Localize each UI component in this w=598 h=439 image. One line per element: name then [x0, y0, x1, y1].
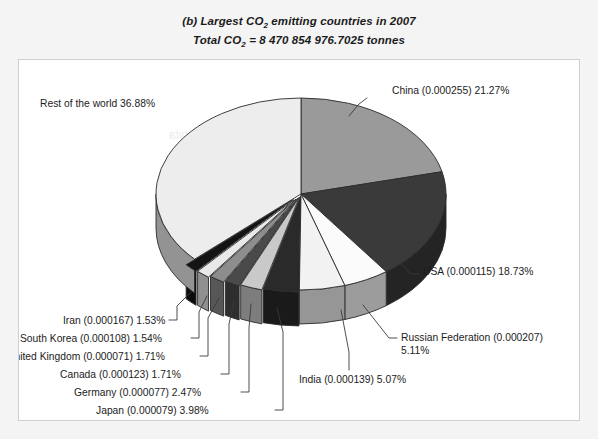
chart-title-line2: Total CO2 = 8 470 854 976.7025 tonnes: [0, 33, 598, 52]
label-united-kingdom: United Kingdom (0.000071) 1.71%: [18, 350, 165, 363]
label-iran: Iran (0.000167) 1.53%: [63, 314, 165, 327]
label-russia-line2: 5.11%: [401, 344, 429, 357]
label-japan: Japan (0.000079) 3.98%: [96, 404, 209, 417]
pie-chart-3d: [19, 60, 580, 421]
label-south-korea: South Korea (0.000108) 1.54%: [20, 332, 162, 345]
chart-title-line1: (b) Largest CO2 emitting countries in 20…: [0, 14, 598, 33]
page-background: (b) Largest CO2 emitting countries in 20…: [0, 0, 598, 439]
label-russia-line1: Russian Federation (0.000207): [401, 331, 543, 344]
label-usa: USA (0.000115) 18.73%: [423, 265, 533, 278]
label-germany: Germany (0.000077) 2.47%: [74, 386, 201, 399]
label-india: India (0.000139) 5.07%: [299, 373, 406, 386]
pie-slice-side-south-korea: [198, 271, 209, 311]
chart-plot-area: emissions per capita China (0.000255) 21…: [18, 59, 580, 421]
pie-slice-side-canada: [225, 281, 239, 320]
pie-slice-side-japan: [263, 289, 299, 326]
pie-slice-side-india: [299, 286, 344, 324]
label-canada: Canada (0.000123) 1.71%: [60, 368, 181, 381]
label-rest-of-world: Rest of the world 36.88%: [40, 97, 155, 110]
label-china: China (0.000255) 21.27%: [392, 84, 509, 97]
chart-title: (b) Largest CO2 emitting countries in 20…: [0, 14, 598, 53]
